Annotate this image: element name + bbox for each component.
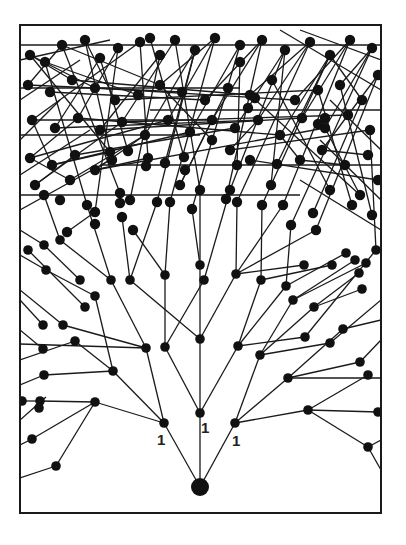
node xyxy=(305,37,315,47)
node xyxy=(152,197,162,207)
node xyxy=(160,158,170,168)
node xyxy=(355,190,365,200)
node xyxy=(207,115,217,125)
node xyxy=(67,75,77,85)
edge xyxy=(111,280,146,348)
node xyxy=(300,332,310,342)
edge xyxy=(165,202,170,275)
edge xyxy=(133,230,165,275)
node xyxy=(155,80,165,90)
node xyxy=(313,119,323,129)
node xyxy=(140,130,150,140)
node xyxy=(303,405,313,415)
edge xyxy=(236,202,237,274)
root-node xyxy=(191,478,209,496)
node xyxy=(367,210,377,220)
node xyxy=(145,33,155,43)
node xyxy=(75,275,85,285)
node xyxy=(278,200,288,210)
node xyxy=(232,160,242,170)
edge xyxy=(308,410,378,412)
edge xyxy=(261,205,262,280)
node xyxy=(309,302,319,312)
node xyxy=(185,127,195,137)
node xyxy=(115,188,125,198)
edge xyxy=(322,150,368,155)
node xyxy=(45,87,55,97)
edge xyxy=(330,100,381,150)
edge xyxy=(60,240,111,280)
node xyxy=(272,159,282,169)
node xyxy=(345,35,355,45)
edge xyxy=(343,320,381,329)
edge xyxy=(308,410,368,447)
node xyxy=(325,185,335,195)
node xyxy=(25,50,35,60)
node xyxy=(55,195,65,205)
node xyxy=(231,269,241,279)
edge xyxy=(40,401,95,402)
network-diagram: 111 xyxy=(0,0,406,545)
node xyxy=(141,161,151,171)
node xyxy=(371,245,381,255)
node xyxy=(290,95,300,105)
node xyxy=(200,95,210,105)
node xyxy=(95,53,105,63)
node xyxy=(363,150,373,160)
edge xyxy=(87,205,111,280)
edge xyxy=(165,347,200,413)
edge xyxy=(308,375,368,410)
node xyxy=(243,103,253,113)
node xyxy=(357,284,367,294)
edge xyxy=(140,42,148,158)
node xyxy=(141,343,151,353)
node xyxy=(367,43,377,53)
node xyxy=(155,50,165,60)
node xyxy=(221,194,231,204)
node xyxy=(163,115,173,125)
edge xyxy=(236,205,283,274)
node xyxy=(51,461,61,471)
node xyxy=(233,341,243,351)
node xyxy=(80,302,90,312)
edge xyxy=(192,209,200,265)
node xyxy=(70,150,80,160)
edge xyxy=(100,55,160,130)
node xyxy=(363,442,373,452)
node xyxy=(39,240,49,250)
node xyxy=(50,123,60,133)
node xyxy=(125,275,135,285)
node xyxy=(281,281,291,291)
edge xyxy=(85,40,115,100)
node xyxy=(250,93,260,103)
node-label: 1 xyxy=(201,419,209,436)
node xyxy=(38,320,48,330)
edge xyxy=(122,217,130,280)
node xyxy=(73,113,83,123)
edge xyxy=(20,300,43,325)
edge xyxy=(164,423,200,487)
node xyxy=(363,370,373,380)
node xyxy=(297,113,307,123)
node xyxy=(295,155,305,165)
node xyxy=(361,258,371,268)
node xyxy=(82,200,92,210)
node xyxy=(108,366,118,376)
edge xyxy=(235,410,308,423)
edge xyxy=(205,40,262,100)
node xyxy=(170,35,180,45)
edge xyxy=(130,202,157,280)
node xyxy=(257,35,267,45)
node xyxy=(256,275,266,285)
node xyxy=(338,324,348,334)
node xyxy=(335,80,345,90)
node xyxy=(23,245,33,255)
node xyxy=(159,418,169,428)
node xyxy=(325,50,335,60)
node xyxy=(160,342,170,352)
node xyxy=(128,225,138,235)
node xyxy=(355,357,365,367)
node xyxy=(223,83,233,93)
node xyxy=(117,212,127,222)
node xyxy=(225,185,235,195)
